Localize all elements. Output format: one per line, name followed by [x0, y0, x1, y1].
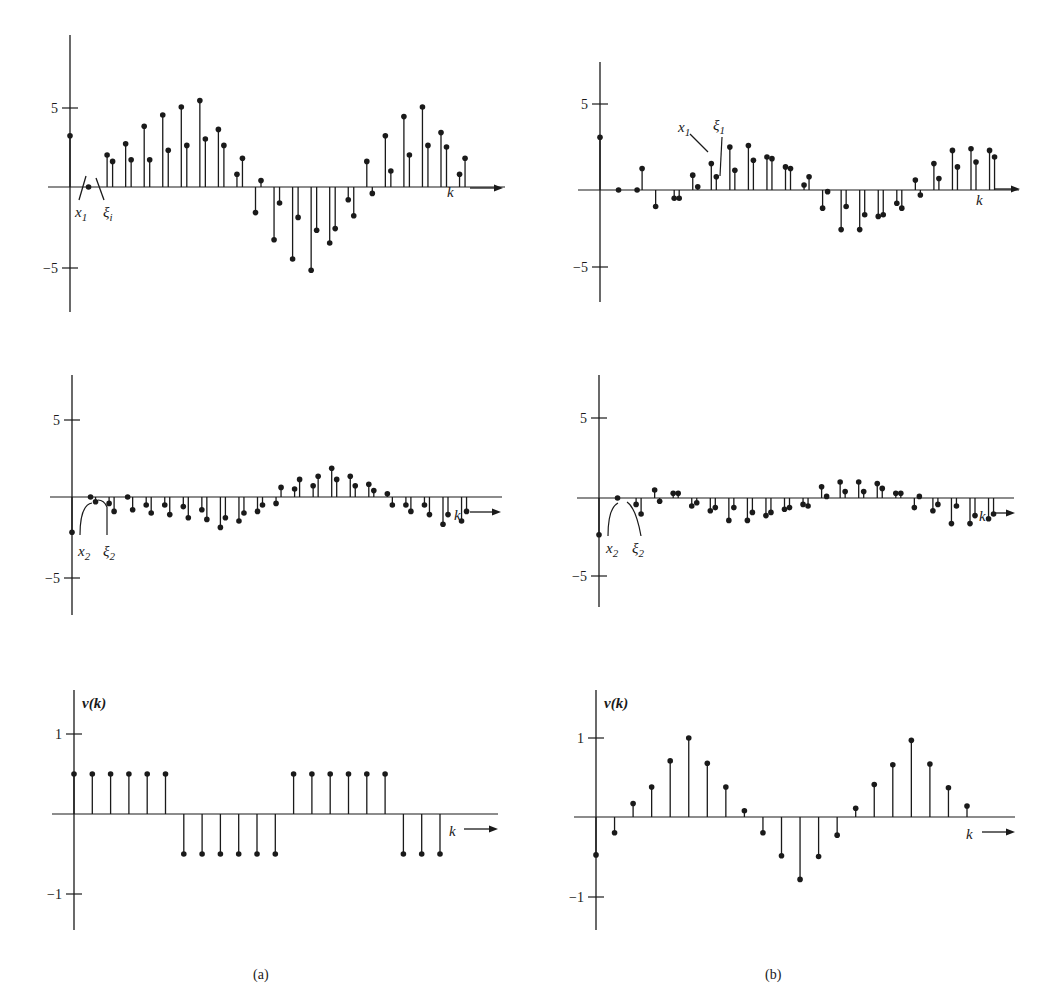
stem-marker [653, 204, 659, 210]
stem-marker [597, 134, 603, 140]
stem-marker [403, 502, 409, 508]
stem-marker [254, 851, 260, 857]
stem-marker [143, 502, 149, 508]
stem-marker [422, 502, 428, 508]
stem-marker [954, 503, 960, 509]
stem-marker [936, 176, 942, 182]
stem-marker [260, 502, 266, 508]
chart-a-top-state-x1: 5−5k [43, 35, 505, 312]
series-x2 [596, 479, 991, 537]
stem-marker [917, 494, 923, 500]
stem-marker [713, 505, 719, 511]
stem-marker [332, 226, 338, 232]
stem-marker [750, 510, 756, 516]
stem-marker [671, 195, 677, 201]
stem-marker [125, 494, 131, 500]
arrow-head-icon [489, 826, 498, 833]
stem-marker [742, 808, 748, 814]
stem-marker [241, 510, 247, 516]
series-ξ2 [93, 473, 470, 522]
stem-marker [141, 123, 147, 129]
stem-marker [345, 197, 351, 203]
stem-marker [909, 738, 915, 744]
stem-marker [295, 215, 301, 221]
stem-marker [420, 104, 426, 110]
stem-marker [899, 205, 905, 211]
stem-marker [764, 154, 770, 160]
stem-marker [366, 481, 372, 487]
stem-marker [382, 771, 388, 777]
stem-marker [253, 210, 259, 216]
stem-marker [329, 465, 335, 471]
stem-marker [861, 489, 867, 495]
stem-marker [986, 516, 992, 522]
stem-marker [805, 503, 811, 509]
stem-marker [918, 192, 924, 198]
stem-marker [240, 155, 246, 161]
stem-marker [787, 505, 793, 511]
stem-marker [893, 490, 899, 496]
stem-marker [216, 127, 222, 133]
stem-marker [236, 518, 242, 524]
stem-marker [181, 851, 187, 857]
stem-marker [371, 488, 377, 494]
stem-marker [779, 853, 785, 859]
arrow-head-icon [1011, 186, 1020, 193]
y-tick-label: −5 [45, 571, 60, 586]
stem-marker [390, 502, 396, 508]
pointer-x2 [608, 503, 618, 536]
stem-marker [950, 148, 956, 154]
stem-marker [308, 267, 314, 273]
stem-marker [388, 168, 394, 174]
stem-marker [277, 200, 283, 206]
stem-marker [186, 515, 192, 521]
stem-marker [639, 166, 645, 172]
stem-marker [694, 500, 700, 506]
stem-marker [69, 529, 75, 535]
annotations: x1ξix1ξ1x2ξ2x2ξ2 [74, 117, 725, 562]
stem-marker [104, 152, 110, 158]
stem-marker [862, 212, 868, 218]
series-x1 [67, 98, 462, 273]
stem-marker [783, 164, 789, 170]
y-tick-label: −5 [572, 569, 587, 584]
series-v(k) [593, 735, 970, 882]
stem-marker [616, 187, 622, 193]
stem-marker [273, 851, 279, 857]
caption-a: (a) [253, 967, 269, 983]
stem-marker [204, 517, 210, 523]
stem-marker [351, 213, 357, 219]
pointer-x2 [80, 503, 92, 535]
stem-marker [675, 490, 681, 496]
stem-marker [437, 851, 443, 857]
caption-b: (b) [765, 967, 781, 983]
stem-marker [670, 490, 676, 496]
pointer-xi1 [96, 178, 104, 200]
label-x2: x2 [77, 543, 91, 562]
stem-marker [271, 237, 277, 243]
stem-marker [199, 507, 205, 513]
stem-marker [184, 143, 190, 149]
label-x1: x1 [74, 204, 87, 223]
y-axis-label: v(k) [604, 695, 628, 712]
stem-marker [440, 521, 446, 527]
stem-marker [273, 501, 279, 507]
stem-marker [106, 501, 112, 507]
stem-marker [874, 481, 880, 487]
arrow-head-icon [1006, 510, 1015, 517]
x-axis-label: k [447, 184, 454, 200]
stem-marker [197, 98, 203, 104]
stem-marker [788, 166, 794, 172]
stem-marker [838, 227, 844, 233]
stem-marker [347, 473, 353, 479]
stem-marker [964, 803, 970, 809]
stem-marker [148, 510, 154, 516]
arrow-head-icon [494, 185, 503, 192]
stem-marker [797, 877, 803, 883]
stem-marker [67, 133, 73, 139]
stem-marker [309, 771, 315, 777]
stem-marker [255, 509, 261, 515]
y-tick-label: −1 [569, 890, 584, 905]
stem-marker [751, 158, 757, 164]
pointer-xi2 [98, 500, 107, 535]
